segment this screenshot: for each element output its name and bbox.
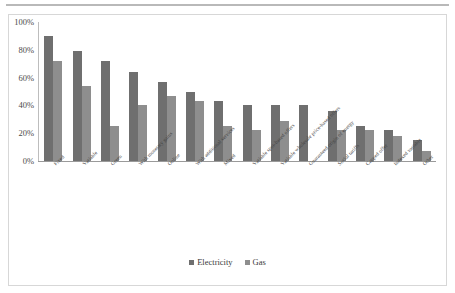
bar-gas[interactable] <box>53 61 62 161</box>
y-axis-tick-label: 20% <box>18 129 34 138</box>
chart-legend: ElectricityGas <box>0 258 455 267</box>
bar-electricity[interactable] <box>243 105 252 161</box>
bar-electricity[interactable] <box>186 92 195 162</box>
bar-series-container <box>39 22 436 161</box>
header-divider <box>6 4 449 6</box>
bar-electricity[interactable] <box>73 51 82 161</box>
y-axis-tick-label: 40% <box>18 101 34 110</box>
bar-group <box>96 22 124 161</box>
bar-group <box>124 22 152 161</box>
legend-swatch-icon <box>245 260 250 265</box>
chart-figure: 100%80%60%40%20%0% FixedVariableGreenWit… <box>0 0 455 293</box>
bar-electricity[interactable] <box>44 36 53 161</box>
x-axis-line <box>38 161 436 162</box>
bar-group <box>238 22 266 161</box>
bar-electricity[interactable] <box>129 72 138 161</box>
legend-swatch-icon <box>189 260 194 265</box>
legend-item-gas[interactable]: Gas <box>245 258 266 267</box>
bar-group <box>379 22 407 161</box>
y-axis-tick-label: 0% <box>23 157 34 166</box>
bar-gas[interactable] <box>82 86 91 161</box>
legend-label: Electricity <box>197 258 232 267</box>
bar-group <box>39 22 67 161</box>
bar-electricity[interactable] <box>101 61 110 161</box>
y-axis-tick-label: 80% <box>18 46 34 55</box>
y-axis-tick-label: 60% <box>18 74 34 83</box>
legend-label: Gas <box>253 258 266 267</box>
bar-gas[interactable] <box>167 96 176 161</box>
bar-electricity[interactable] <box>214 101 223 161</box>
bar-group <box>181 22 209 161</box>
x-axis-labels: FixedVariableGreenWith monetary gainsOnl… <box>39 163 436 263</box>
bar-group <box>351 22 379 161</box>
legend-item-electricity[interactable]: Electricity <box>189 258 232 267</box>
y-axis-tick-label: 100% <box>14 18 34 27</box>
y-axis-labels: 100%80%60%40%20%0% <box>0 0 34 180</box>
bar-group <box>67 22 95 161</box>
